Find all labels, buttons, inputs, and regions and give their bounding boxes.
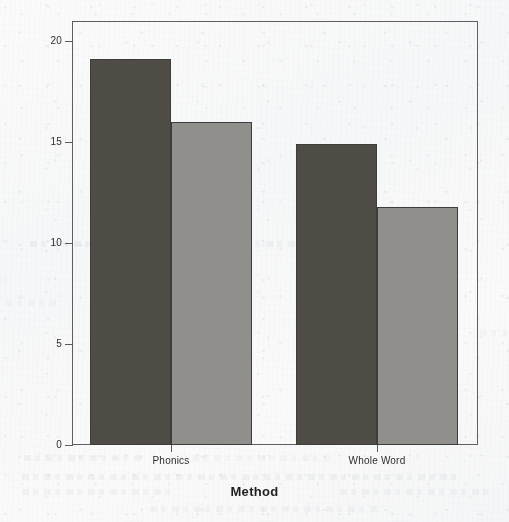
x-axis-tick-phonics (171, 445, 172, 452)
bar-phonics-light[interactable] (171, 122, 252, 445)
y-axis-tick-5 (65, 344, 73, 345)
x-axis-tick-wholeword (377, 445, 378, 452)
x-axis-label-phonics: Phonics (121, 455, 221, 466)
y-axis-label-5: 5 (32, 338, 62, 349)
bar-wholeword-light[interactable] (377, 207, 458, 445)
bar-wholeword-dark[interactable] (296, 144, 377, 445)
y-axis-label-10: 10 (32, 237, 62, 248)
x-axis-label-wholeword: Whole Word (327, 455, 427, 466)
bar-phonics-dark[interactable] (90, 59, 171, 445)
bar-chart-plot-area (72, 21, 478, 445)
y-axis-label-20: 20 (32, 35, 62, 46)
y-axis-label-0: 0 (32, 439, 62, 450)
y-axis-tick-10 (65, 243, 73, 244)
y-axis-tick-20 (65, 41, 73, 42)
y-axis-tick-0 (65, 445, 73, 446)
y-axis-label-15: 15 (32, 136, 62, 147)
y-axis-tick-15 (65, 142, 73, 143)
x-axis-title: Method (0, 484, 509, 499)
